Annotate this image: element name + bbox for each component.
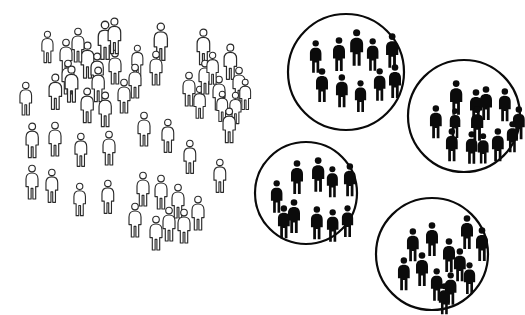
population-cluster-diagram bbox=[0, 0, 525, 315]
diagram-canvas bbox=[0, 0, 525, 315]
